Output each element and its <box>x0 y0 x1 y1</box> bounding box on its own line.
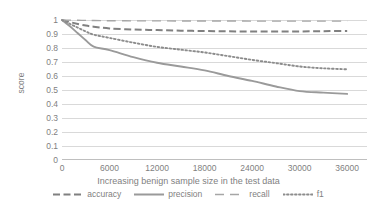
x-tick-label: 30000 <box>278 164 322 173</box>
legend-item-accuracy[interactable]: accuracy <box>53 190 121 199</box>
x-axis-title: Increasing benign sample size in the tes… <box>0 176 377 186</box>
legend-item-precision[interactable]: precision <box>134 190 202 199</box>
x-tick-label: 0 <box>40 164 84 173</box>
x-tick-label: 18000 <box>183 164 227 173</box>
plot-area <box>62 20 367 160</box>
legend-label: recall <box>249 190 269 199</box>
y-tick-label: 0.5 <box>4 86 58 95</box>
legend-swatch-precision <box>134 190 164 199</box>
y-tick-label: 0.8 <box>4 44 58 53</box>
y-tick-label: 0.3 <box>4 114 58 123</box>
y-tick-label: 0.6 <box>4 72 58 81</box>
y-tick-label: 1 <box>4 16 58 25</box>
legend-swatch-accuracy <box>53 190 83 199</box>
legend-label: f1 <box>317 190 324 199</box>
y-axis-tick-labels: 00.10.20.30.40.50.60.70.80.91 <box>0 0 58 180</box>
y-tick-label: 0.2 <box>4 128 58 137</box>
legend-item-f1[interactable]: f1 <box>283 190 324 199</box>
legend-label: precision <box>168 190 202 199</box>
series-line-recall <box>62 20 347 21</box>
x-tick-label: 12000 <box>135 164 179 173</box>
y-tick-label: 0.4 <box>4 100 58 109</box>
legend-swatch-recall <box>215 190 245 199</box>
legend-label: accuracy <box>87 190 121 199</box>
x-tick-label: 6000 <box>88 164 132 173</box>
x-tick-label: 24000 <box>230 164 274 173</box>
legend-item-recall[interactable]: recall <box>215 190 269 199</box>
y-tick-label: 0.1 <box>4 142 58 151</box>
y-tick-label: 0.9 <box>4 30 58 39</box>
chart-legend: accuracyprecisionrecallf1 <box>0 190 377 199</box>
legend-swatch-f1 <box>283 190 313 199</box>
x-tick-label: 36000 <box>325 164 369 173</box>
y-tick-label: 0.7 <box>4 58 58 67</box>
series-layer <box>62 20 367 160</box>
line-chart: score 00.10.20.30.40.50.60.70.80.91 0600… <box>0 0 377 213</box>
